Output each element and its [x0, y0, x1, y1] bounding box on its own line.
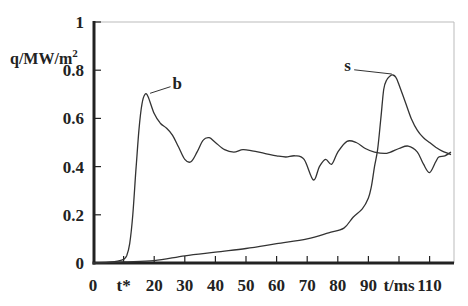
x-tick-label: t/ms	[383, 276, 415, 295]
annotation-leader-b	[150, 87, 170, 94]
curve-label-s: s	[344, 56, 351, 75]
y-tick-label: 1	[76, 13, 85, 32]
curve-b	[93, 94, 451, 263]
y-axis-title: q/MW/m2	[10, 47, 78, 68]
heat-flux-chart: 00.20.40.60.81 0t*2030405060708090t/ms11…	[0, 0, 468, 306]
y-tick-label: 0	[76, 254, 85, 273]
x-tick-label: 90	[360, 276, 377, 295]
x-tick-label: t*	[117, 276, 131, 295]
x-tick-label: 50	[238, 276, 255, 295]
x-tick-label: 60	[268, 276, 285, 295]
curve-s	[93, 75, 451, 263]
x-tick-label: 70	[299, 276, 316, 295]
y-tick-label: 0.6	[63, 109, 84, 128]
x-tick-label: 110	[417, 276, 442, 295]
x-tick-label: 80	[329, 276, 346, 295]
y-tick-label: 0.4	[63, 158, 85, 177]
annotation-leader-s	[354, 70, 392, 74]
x-tick-label: 20	[146, 276, 163, 295]
y-tick-label: 0.2	[63, 206, 84, 225]
curve-annotations: bs	[150, 56, 392, 94]
curve-label-b: b	[173, 74, 182, 93]
x-tick-label: 30	[176, 276, 193, 295]
plot-frame	[93, 21, 455, 265]
x-tick-label: 40	[207, 276, 224, 295]
plot-curves	[93, 75, 451, 263]
x-tick-label: 0	[89, 276, 98, 295]
